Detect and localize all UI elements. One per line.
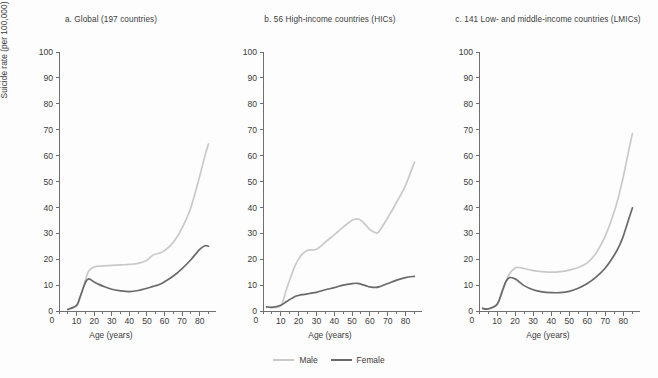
svg-text:10: 10 [492,316,502,324]
svg-text:90: 90 [247,73,257,83]
legend-label-female: Female [357,355,385,365]
svg-text:60: 60 [463,151,473,161]
svg-text:40: 40 [43,203,53,213]
svg-text:10: 10 [43,280,53,290]
svg-text:20: 20 [463,254,473,264]
svg-text:30: 30 [463,228,473,238]
svg-text:60: 60 [365,316,375,324]
svg-text:70: 70 [601,316,611,324]
svg-text:10: 10 [276,316,286,324]
panel-b-x-axis-label: Age (years) [222,330,438,340]
svg-text:30: 30 [43,228,53,238]
svg-text:30: 30 [107,316,117,324]
svg-text:80: 80 [195,316,205,324]
svg-text:90: 90 [463,73,473,83]
svg-text:70: 70 [177,316,187,324]
svg-text:40: 40 [463,203,473,213]
svg-text:60: 60 [582,316,592,324]
panel-b-title: b. 56 High-income countries (HICs) [222,14,438,25]
svg-text:50: 50 [247,177,257,187]
svg-text:30: 30 [247,228,257,238]
svg-text:40: 40 [247,203,257,213]
svg-text:40: 40 [329,316,339,324]
svg-text:0: 0 [50,315,55,325]
figure-root: a. Global (197 countries) Suicide rate (… [0,0,658,378]
svg-text:40: 40 [125,316,135,324]
svg-text:20: 20 [294,316,304,324]
svg-text:50: 50 [564,316,574,324]
svg-text:0: 0 [254,315,259,325]
legend-swatch-male [273,359,294,361]
svg-text:70: 70 [463,125,473,135]
svg-text:100: 100 [459,47,474,57]
svg-text:30: 30 [528,316,538,324]
legend-label-male: Male [299,355,317,365]
svg-text:70: 70 [247,125,257,135]
svg-text:10: 10 [72,316,82,324]
panel-a-title: a. Global (197 countries) [0,14,222,25]
svg-text:20: 20 [89,316,99,324]
svg-text:90: 90 [43,73,53,83]
legend-swatch-female [331,359,352,361]
svg-text:100: 100 [39,47,54,57]
svg-text:50: 50 [347,316,357,324]
chart-panel-c: c. 141 Low- and middle-income countries … [438,0,658,352]
svg-text:70: 70 [383,316,393,324]
svg-text:20: 20 [510,316,520,324]
svg-text:100: 100 [243,47,258,57]
svg-text:10: 10 [247,280,257,290]
svg-text:60: 60 [43,151,53,161]
svg-text:80: 80 [463,99,473,109]
svg-text:50: 50 [463,177,473,187]
svg-text:20: 20 [247,254,257,264]
svg-text:60: 60 [247,151,257,161]
panel-c-x-axis-label: Age (years) [438,330,658,340]
chart-panel-b: b. 56 High-income countries (HICs) 01020… [222,0,438,352]
svg-text:80: 80 [247,99,257,109]
svg-text:50: 50 [43,177,53,187]
svg-text:80: 80 [43,99,53,109]
panel-a-plot: 010203040506070809010001020304050607080 [0,34,222,324]
panel-c-title: c. 141 Low- and middle-income countries … [438,14,658,25]
chart-panel-a: a. Global (197 countries) Suicide rate (… [0,0,222,352]
svg-text:10: 10 [463,280,473,290]
svg-text:70: 70 [43,125,53,135]
svg-text:40: 40 [546,316,556,324]
chart-legend: Male Female [0,355,658,365]
svg-text:60: 60 [160,316,170,324]
legend-item-male: Male [273,355,317,365]
legend-item-female: Female [331,355,385,365]
svg-text:0: 0 [470,315,475,325]
svg-text:30: 30 [312,316,322,324]
svg-text:20: 20 [43,254,53,264]
panel-b-plot: 010203040506070809010001020304050607080 [222,34,438,324]
panel-c-plot: 010203040506070809010001020304050607080 [438,34,658,324]
svg-text:80: 80 [619,316,629,324]
svg-text:80: 80 [401,316,411,324]
svg-text:50: 50 [142,316,152,324]
panel-a-x-axis-label: Age (years) [0,330,222,340]
